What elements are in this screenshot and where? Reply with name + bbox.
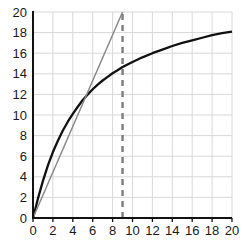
- y-tick-label: 4: [20, 169, 27, 184]
- x-tick-label: 12: [145, 223, 159, 238]
- x-tick-label: 10: [125, 223, 139, 238]
- y-tick-label: 16: [13, 46, 27, 61]
- x-tick-label: 8: [109, 223, 116, 238]
- x-tick-label: 18: [205, 223, 219, 238]
- y-tick-label: 6: [20, 149, 27, 164]
- y-tick-label: 2: [20, 190, 27, 205]
- y-tick-label: 10: [13, 108, 27, 123]
- y-tick-label: 14: [13, 66, 27, 81]
- x-tick-label: 2: [49, 223, 56, 238]
- y-tick-label: 12: [13, 87, 27, 102]
- y-tick-label: 8: [20, 128, 27, 143]
- x-tick-label: 6: [89, 223, 96, 238]
- x-tick-label: 14: [165, 223, 179, 238]
- x-tick-label: 16: [185, 223, 199, 238]
- x-tick-label: 0: [29, 223, 36, 238]
- y-tick-label: 18: [13, 25, 27, 40]
- y-tick-label: 20: [13, 5, 27, 20]
- chart-plot: 02468101214161820 02468101214161820: [0, 0, 247, 245]
- chart-container: 02468101214161820 02468101214161820: [0, 0, 247, 245]
- y-tick-label: 0: [20, 211, 27, 226]
- x-tick-label: 4: [69, 223, 76, 238]
- x-tick-label: 20: [225, 223, 239, 238]
